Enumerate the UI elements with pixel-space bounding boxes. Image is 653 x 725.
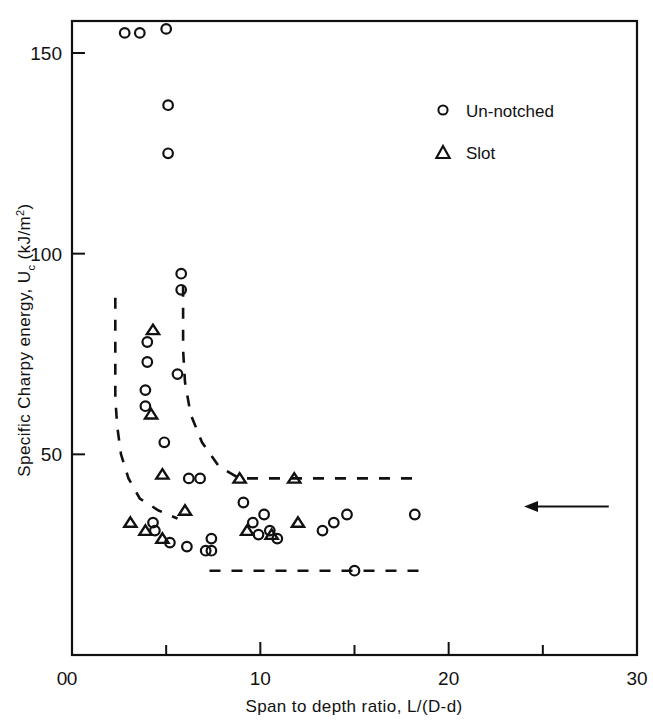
y-tick-label-0: 0 (57, 668, 68, 689)
x-tick-label-0: 0 (67, 668, 78, 689)
y-axis-title: Specific Charpy energy, Uc (kJ/m2) (14, 203, 37, 476)
y-axis-title-unit-close: ) (15, 203, 34, 209)
chart-figure: 0102030 050100150 Un-notched Slot Span t… (0, 0, 653, 725)
plot-background (0, 0, 653, 725)
y-tick-label-50: 50 (41, 444, 62, 465)
y-axis-title-unit-open: (kJ/m (15, 216, 34, 265)
legend-label-un-notched: Un-notched (466, 102, 554, 121)
x-axis-title-text: Span to depth ratio, L/(D-d) (245, 697, 462, 716)
y-tick-label-100: 100 (30, 244, 62, 265)
legend-label-slot: Slot (466, 144, 496, 163)
x-tick-label-10: 10 (250, 668, 271, 689)
y-axis-title-prefix: Specific Charpy energy, U (15, 270, 34, 476)
y-tick-label-150: 150 (30, 43, 62, 64)
x-tick-label-20: 20 (438, 668, 459, 689)
x-axis-title: Span to depth ratio, L/(D-d) (245, 697, 462, 716)
y-axis-title-text: Specific Charpy energy, Uc (kJ/m2) (14, 203, 37, 476)
scatter-plot-canvas: 0102030 050100150 Un-notched Slot Span t… (0, 0, 653, 725)
x-tick-label-30: 30 (626, 668, 647, 689)
